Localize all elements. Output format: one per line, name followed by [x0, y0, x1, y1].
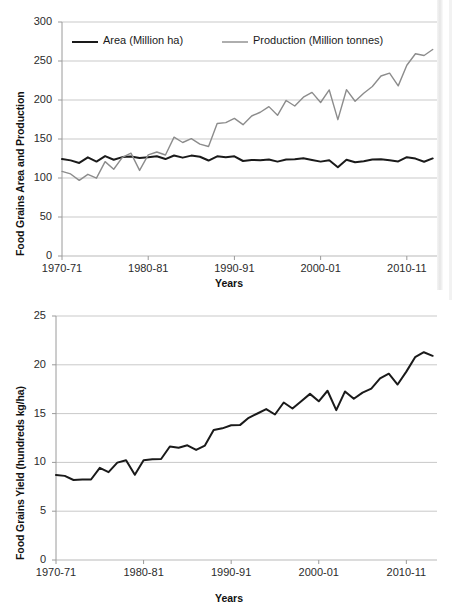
x-tick-label: 2010-11 [372, 262, 442, 274]
series-line-0 [56, 352, 433, 480]
y-tick-label: 200 [22, 93, 52, 105]
y-tick-label: 150 [22, 132, 52, 144]
chart-food-grains-area-production: Food Grains Area and Production Years 05… [0, 0, 458, 300]
x-tick-label: 2010-11 [371, 566, 441, 578]
x-tick-label: 2000-01 [286, 262, 356, 274]
y-tick-label: 25 [16, 309, 46, 321]
x-tick-label: 1990-91 [196, 566, 266, 578]
y-tick-label: 0 [22, 249, 52, 261]
x-tick-label: 2000-01 [284, 566, 354, 578]
x-tick-label: 1970-71 [21, 566, 91, 578]
chart-food-grains-yield: Food Grains Yield (hundreds kg/ha) Years… [0, 300, 458, 615]
y-tick-label: 10 [16, 455, 46, 467]
x-axis-label-top: Years [0, 277, 458, 289]
plot-area-top [0, 0, 458, 300]
x-tick-label: 1970-71 [27, 262, 97, 274]
x-tick-label: 1980-81 [113, 262, 183, 274]
scan-artifact-edge-outer [449, 0, 452, 300]
x-tick-label: 1990-91 [199, 262, 269, 274]
y-tick-label: 15 [16, 407, 46, 419]
figure-page: Food Grains Area and Production Years 05… [0, 0, 458, 615]
y-tick-label: 0 [16, 553, 46, 565]
y-tick-label: 50 [22, 210, 52, 222]
y-tick-label: 250 [22, 54, 52, 66]
legend-label-0: Area (Million ha) [103, 34, 183, 46]
y-tick-label: 300 [22, 15, 52, 27]
y-tick-label: 5 [16, 504, 46, 516]
scan-artifact-edge [437, 0, 443, 290]
x-tick-label: 1980-81 [109, 566, 179, 578]
x-axis-label-bottom: Years [0, 592, 458, 604]
y-tick-label: 100 [22, 171, 52, 183]
series-line-0 [62, 155, 433, 167]
legend-label-1: Production (Million tonnes) [253, 34, 383, 46]
y-tick-label: 20 [16, 358, 46, 370]
